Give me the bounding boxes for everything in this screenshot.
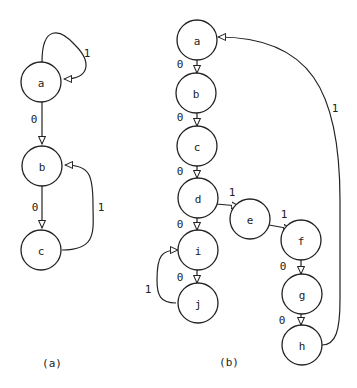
node-b-state-b: b [176,73,216,113]
node-a-state-b: b [22,146,62,186]
node-b-state-j: j [178,283,218,323]
svg-text:c: c [38,245,45,258]
edge-label-c-b: 1 [98,201,105,214]
svg-text:h: h [299,340,306,353]
svg-text:b: b [39,161,46,174]
node-a-state-a: a [21,62,61,102]
node-b-state-i: i [178,230,218,270]
state-diagrams: 1 0 0 1 a b c (a) 0 [0,0,357,388]
svg-text:f: f [298,235,305,248]
node-b-state-a: a [177,20,217,60]
edge-label-b-e-f: 1 [281,208,288,221]
caption-b: (b) [219,356,239,369]
svg-text:g: g [299,289,306,302]
svg-text:b: b [193,88,200,101]
edge-label-a-b: 0 [31,113,38,126]
edge-label-b-i-j: 0 [177,271,184,284]
node-b-state-c: c [177,126,217,166]
edge-label-b-h-a: 1 [332,102,339,115]
edge-label-b-c-d: 0 [177,165,184,178]
svg-text:c: c [194,141,201,154]
svg-text:i: i [195,245,202,258]
edge-label-b-a-b: 0 [177,58,184,71]
edge-b-j-i-loop [157,250,178,303]
edge-label-b-f-g: 0 [280,260,287,273]
node-b-state-d: d [178,178,218,218]
node-a-state-c: c [21,230,61,270]
edge-c-b-loop [62,165,93,250]
node-b-state-h: h [282,325,322,365]
svg-text:e: e [247,214,254,227]
node-b-state-g: g [282,274,322,314]
svg-text:a: a [38,77,45,90]
node-b-state-f: f [281,220,321,260]
node-b-state-e: e [230,199,270,239]
svg-text:d: d [195,193,202,206]
caption-a: (a) [42,357,62,370]
edge-label-b-d-i: 0 [177,218,184,231]
edge-label-b-c: 0 [32,201,39,214]
svg-text:a: a [194,35,201,48]
diagram-b: 0 0 0 1 1 0 0 1 [145,20,340,369]
edge-label-a-a: 1 [84,47,91,60]
edge-label-b-g-h: 0 [279,314,286,327]
diagram-a: 1 0 0 1 a b c (a) [21,33,104,370]
edge-label-b-b-c: 0 [177,111,184,124]
edge-label-b-j-i: 1 [145,283,152,296]
edge-label-b-d-e: 1 [229,186,236,199]
svg-text:j: j [195,298,202,311]
